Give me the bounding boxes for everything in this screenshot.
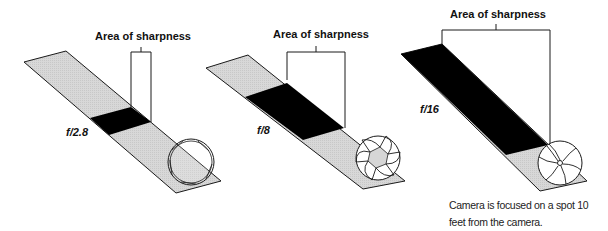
aperture-label: f/2.8 bbox=[66, 126, 89, 138]
aperture-medium-icon bbox=[356, 136, 400, 180]
caption-line-2: feet from the camera. bbox=[449, 214, 608, 231]
panel-f8: Area of sharpness f/8 bbox=[206, 28, 405, 189]
aperture-stopped-down-icon bbox=[538, 141, 582, 185]
aperture-label: f/8 bbox=[257, 124, 271, 136]
area-of-sharpness-label: Area of sharpness bbox=[95, 30, 191, 42]
sharp-zone bbox=[401, 44, 548, 155]
aperture-label: f/16 bbox=[420, 103, 440, 115]
panel-f2-8: Area of sharpness f/2.8 bbox=[24, 30, 221, 193]
area-of-sharpness-label: Area of sharpness bbox=[273, 28, 369, 40]
panel-f16: Area of sharpness f/16 bbox=[401, 8, 587, 191]
caption-line-1: Camera is focused on a spot 10 bbox=[449, 197, 608, 214]
aperture-wide-open-icon bbox=[168, 139, 214, 185]
caption: Camera is focused on a spot 10 feet from… bbox=[449, 197, 608, 231]
area-of-sharpness-label: Area of sharpness bbox=[450, 8, 546, 20]
